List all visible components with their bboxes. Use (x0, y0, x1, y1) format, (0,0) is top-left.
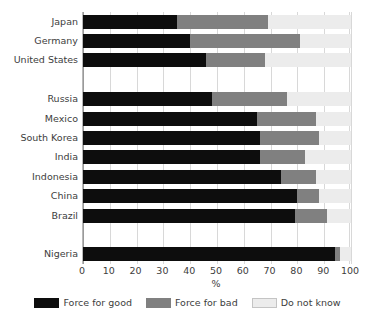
bar-segment-force-for-bad (177, 15, 268, 29)
stacked-bar (83, 112, 351, 126)
bar-segment-force-for-good (83, 15, 177, 29)
stacked-bar (83, 247, 351, 261)
plot-area (82, 12, 350, 264)
bar-rows (83, 12, 349, 264)
bar-row (83, 15, 349, 29)
bar-row (83, 247, 349, 261)
bar-row (83, 34, 349, 48)
bar-segment-force-for-good (83, 209, 295, 223)
bar-segment-do-not-know (316, 170, 351, 184)
bar-segment-do-not-know (287, 92, 351, 106)
bar-segment-force-for-good (83, 92, 212, 106)
stacked-bar (83, 170, 351, 184)
legend-swatch-bad (146, 298, 171, 308)
y-axis-label-united-states: United States (0, 55, 78, 65)
x-axis-title: % (82, 278, 350, 289)
legend-item-force-for-good[interactable]: Force for good (34, 298, 132, 308)
y-axis-label-japan: Japan (0, 17, 78, 27)
y-axis-label-china: China (0, 191, 78, 201)
y-axis-label-mexico: Mexico (0, 114, 78, 124)
bar-segment-do-not-know (327, 209, 351, 223)
x-axis-tick-80: 80 (290, 266, 302, 276)
bar-segment-force-for-bad (281, 170, 316, 184)
bar-segment-do-not-know (316, 112, 351, 126)
bar-segment-force-for-good (83, 131, 260, 145)
x-axis-tick-0: 0 (79, 266, 85, 276)
bar-segment-force-for-bad (260, 131, 319, 145)
x-axis-tick-70: 70 (264, 266, 276, 276)
gridline-100 (351, 12, 352, 264)
bar-segment-do-not-know (319, 189, 351, 203)
bar-segment-force-for-good (83, 170, 281, 184)
bar-row (83, 92, 349, 106)
bar-segment-force-for-good (83, 247, 335, 261)
x-axis-tick-50: 50 (210, 266, 222, 276)
bar-segment-do-not-know (268, 15, 351, 29)
bar-segment-do-not-know (340, 247, 351, 261)
bar-row (83, 131, 349, 145)
y-axis-label-south-korea: South Korea (0, 133, 78, 143)
x-axis-tick-100: 100 (341, 266, 359, 276)
y-axis-label-india: India (0, 152, 78, 162)
bar-segment-force-for-good (83, 34, 190, 48)
bar-segment-force-for-bad (212, 92, 287, 106)
stacked-bar (83, 131, 351, 145)
bar-segment-force-for-bad (260, 150, 306, 164)
x-axis-tick-10: 10 (103, 266, 115, 276)
stacked-bar (83, 189, 351, 203)
x-axis-tick-60: 60 (237, 266, 249, 276)
bar-segment-force-for-good (83, 189, 297, 203)
chart-legend: Force for goodForce for badDo not know (0, 298, 375, 308)
x-axis-tick-90: 90 (317, 266, 329, 276)
stacked-bar (83, 53, 351, 67)
bar-segment-do-not-know (319, 131, 351, 145)
x-axis-tick-40: 40 (183, 266, 195, 276)
stacked-bar (83, 34, 351, 48)
y-axis-category-labels: JapanGermanyUnited StatesRussiaMexicoSou… (0, 12, 78, 264)
bar-segment-do-not-know (305, 150, 351, 164)
bar-segment-force-for-bad (257, 112, 316, 126)
legend-label: Force for bad (175, 298, 238, 308)
legend-item-do-not-know[interactable]: Do not know (252, 298, 341, 308)
stacked-bar (83, 92, 351, 106)
bar-segment-force-for-bad (295, 209, 327, 223)
bar-segment-force-for-good (83, 53, 206, 67)
y-axis-label-germany: Germany (0, 36, 78, 46)
y-axis-label-russia: Russia (0, 94, 78, 104)
bar-segment-force-for-bad (190, 34, 300, 48)
legend-label: Force for good (63, 298, 132, 308)
stacked-bar (83, 209, 351, 223)
x-axis-tick-20: 20 (130, 266, 142, 276)
y-axis-label-brazil: Brazil (0, 211, 78, 221)
stacked-bar (83, 15, 351, 29)
legend-label: Do not know (281, 298, 341, 308)
legend-swatch-do-not-know (252, 298, 277, 308)
stacked-bar-chart: JapanGermanyUnited StatesRussiaMexicoSou… (0, 0, 375, 320)
bar-segment-force-for-bad (297, 189, 318, 203)
legend-swatch-good (34, 298, 59, 308)
bar-segment-do-not-know (265, 53, 351, 67)
y-axis-label-nigeria: Nigeria (0, 249, 78, 259)
legend-item-force-for-bad[interactable]: Force for bad (146, 298, 238, 308)
bar-row (83, 209, 349, 223)
bar-row (83, 53, 349, 67)
bar-row (83, 189, 349, 203)
stacked-bar (83, 150, 351, 164)
x-axis-tick-30: 30 (156, 266, 168, 276)
bar-row (83, 170, 349, 184)
bar-segment-do-not-know (300, 34, 351, 48)
bar-row (83, 112, 349, 126)
y-axis-label-indonesia: Indonesia (0, 172, 78, 182)
bar-segment-force-for-good (83, 150, 260, 164)
bar-row (83, 150, 349, 164)
bar-segment-force-for-good (83, 112, 257, 126)
bar-segment-force-for-bad (206, 53, 265, 67)
